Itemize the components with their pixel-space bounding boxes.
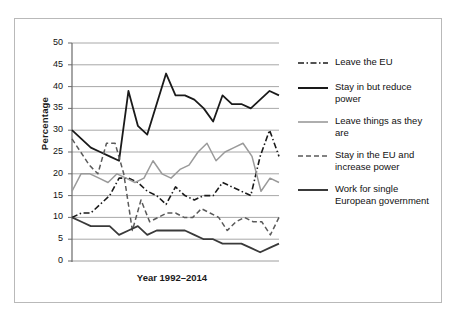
legend-item-label: Leave the EU (335, 56, 393, 68)
y-tick-label: 5 (41, 233, 63, 243)
legend-item-label: Stay in but reduce power (335, 81, 412, 104)
chart-plot-region: 05101520253035404550 Percentage Year 199… (0, 0, 461, 322)
legend-item-1: Stay in but reduce power (298, 81, 450, 104)
legend-line-sample-icon (298, 81, 328, 95)
y-tick-label: 0 (41, 255, 63, 265)
legend-item-2: Leave things as they are (298, 115, 450, 138)
y-tick-label: 10 (41, 211, 63, 221)
chart-figure: 05101520253035404550 Percentage Year 199… (0, 0, 461, 322)
series-line-4 (72, 217, 279, 252)
legend-line-sample-icon (298, 149, 328, 163)
legend-item-0: Leave the EU (298, 56, 450, 70)
data-series-group (72, 74, 279, 253)
legend-line-sample-icon (298, 115, 328, 129)
y-tick-label: 15 (41, 190, 63, 200)
series-line-2 (72, 143, 279, 191)
x-axis-title: Year 1992–2014 (72, 272, 272, 283)
legend-item-label: Leave things as they are (335, 115, 422, 138)
legend-item-3: Stay in the EU and increase power (298, 149, 450, 172)
gridlines (72, 43, 279, 261)
legend-item-label: Stay in the EU and increase power (335, 149, 414, 172)
legend-line-sample-icon (298, 56, 328, 70)
legend-item-label: Work for single European government (335, 183, 429, 206)
y-axis-title: Percentage (39, 64, 50, 184)
legend-item-4: Work for single European government (298, 183, 450, 206)
y-tick-label: 50 (41, 37, 63, 47)
chart-legend: Leave the EUStay in but reduce powerLeav… (298, 56, 450, 217)
legend-line-sample-icon (298, 183, 328, 197)
